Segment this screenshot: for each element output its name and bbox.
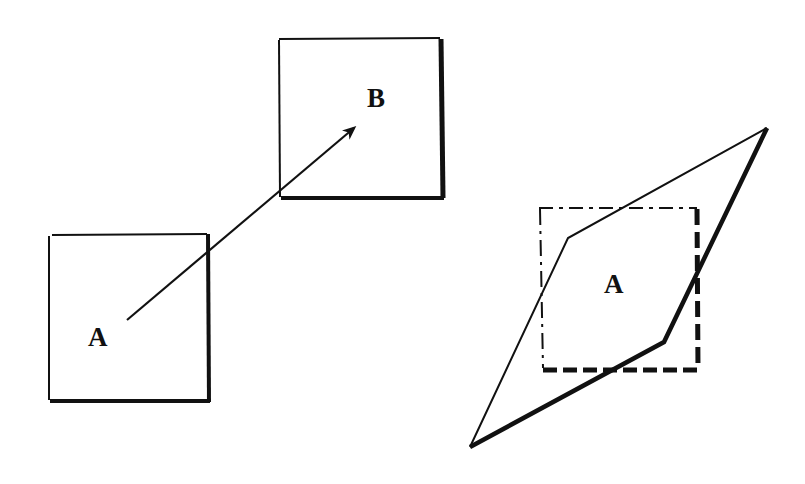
translation-arrow (127, 128, 354, 320)
label-b: B (367, 83, 385, 113)
square-b (279, 38, 444, 198)
diagram-canvas: A B A (0, 0, 805, 484)
label-a-sheared: A (604, 269, 624, 299)
label-a: A (88, 322, 108, 352)
